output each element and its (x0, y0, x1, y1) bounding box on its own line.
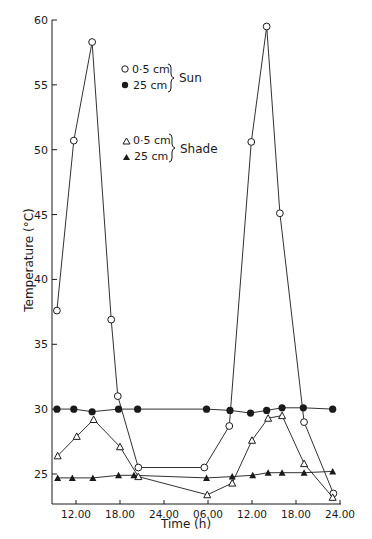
filled-circle-marker (278, 404, 285, 411)
y-axis-label: Temperature (°C) (22, 208, 36, 313)
series-line (58, 471, 333, 478)
open-triangle-icon (123, 138, 130, 144)
filled-circle-icon (122, 82, 128, 88)
y-tick-label: 50 (34, 144, 48, 157)
filled-circle-marker (263, 407, 270, 414)
filled-circle-marker (115, 406, 122, 413)
series-line (58, 416, 333, 498)
y-tick-label: 25 (34, 468, 48, 481)
x-tick-label: 18.00 (105, 508, 135, 520)
y-tick-label: 45 (34, 209, 48, 222)
open-circle-marker (263, 23, 270, 30)
x-tick-label: 12.00 (237, 508, 267, 520)
y-tick-label: 40 (34, 273, 48, 286)
open-triangle-marker (301, 460, 308, 467)
legend-shade-25cm: 25 cm (134, 150, 168, 163)
x-axis-label: Time (h) (160, 517, 211, 531)
axes: 253035404550556012.0018.0024.0006.0012.0… (34, 14, 355, 520)
filled-circle-marker (53, 406, 60, 413)
legend-shade-label: Shade (180, 142, 218, 156)
y-tick-label: 35 (34, 338, 48, 351)
y-tick-label: 30 (34, 403, 48, 416)
open-triangle-marker (279, 412, 286, 419)
legend-sun-25cm: 25 cm (133, 79, 167, 92)
open-circle-marker (70, 137, 77, 144)
open-circle-marker (114, 393, 121, 400)
chart-canvas: 253035404550556012.0018.0024.0006.0012.0… (0, 0, 372, 539)
open-circle-marker (135, 464, 142, 471)
open-circle-marker (54, 307, 61, 314)
filled-circle-marker (134, 406, 141, 413)
filled-circle-marker (203, 406, 210, 413)
series-line (57, 27, 334, 494)
x-tick-label: 12.00 (61, 508, 91, 520)
filled-circle-marker (300, 404, 307, 411)
open-circle-marker (248, 139, 255, 146)
series-line (57, 408, 333, 413)
open-circle-marker (201, 464, 208, 471)
legend-sun-0-5cm: 0·5 cm (132, 63, 170, 76)
filled-circle-marker (70, 406, 77, 413)
y-tick-label: 60 (34, 14, 48, 27)
temperature-chart: 253035404550556012.0018.0024.0006.0012.0… (0, 0, 372, 539)
legend-shade-0-5cm: 0·5 cm (133, 134, 171, 147)
filled-circle-marker (329, 406, 336, 413)
open-triangle-marker (249, 437, 256, 444)
legend-sun-label: Sun (179, 71, 202, 85)
open-circle-marker (108, 316, 115, 323)
x-tick-label: 24.00 (325, 508, 355, 520)
filled-circle-marker (226, 407, 233, 414)
y-tick-label: 55 (34, 79, 48, 92)
open-circle-icon (122, 66, 128, 72)
open-triangle-marker (229, 480, 236, 487)
legend: 0·5 cm 25 cm Sun 0·5 cm 25 cm Shade (122, 63, 218, 163)
open-circle-marker (89, 39, 96, 46)
filled-circle-marker (247, 409, 254, 416)
open-circle-marker (226, 423, 233, 430)
filled-circle-marker (89, 408, 96, 415)
series-layer (53, 23, 336, 500)
open-triangle-marker (90, 416, 97, 423)
open-circle-marker (301, 419, 308, 426)
open-circle-marker (276, 210, 283, 217)
filled-triangle-icon (123, 154, 130, 160)
x-tick-label: 18.00 (281, 508, 311, 520)
